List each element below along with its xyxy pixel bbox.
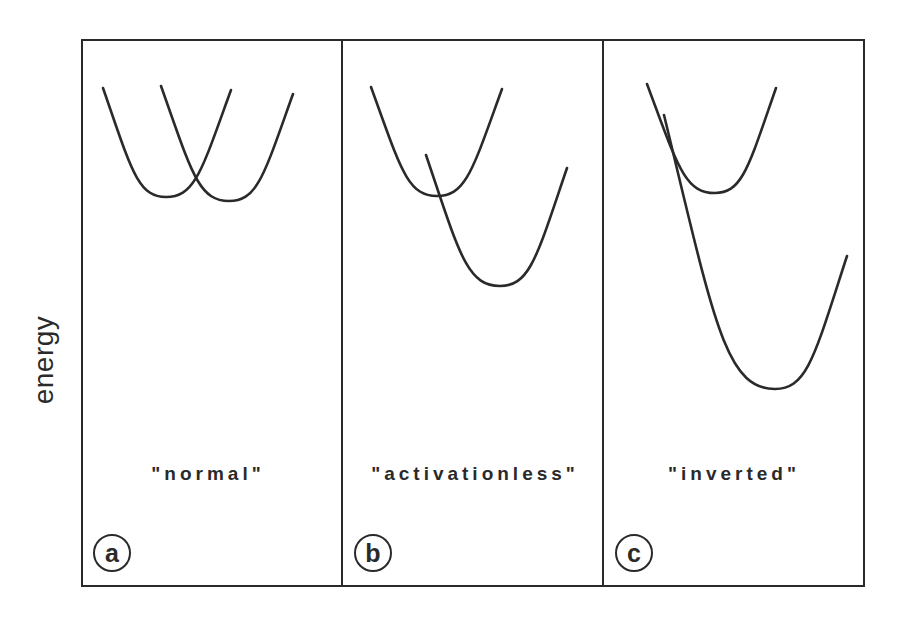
- marcus-regions-diagram: [0, 0, 903, 618]
- figure-frame: [82, 40, 864, 586]
- panel-b-label: "activationless": [371, 463, 579, 485]
- panel-a-letter-badge: a: [93, 534, 131, 572]
- energy-curves: [103, 84, 847, 389]
- panel-c-label: "inverted": [668, 463, 800, 485]
- panel-a-label: "normal": [151, 463, 264, 485]
- panel-c-letter: c: [627, 541, 641, 566]
- panel-c-letter-badge: c: [615, 534, 653, 572]
- panel-b-letter-badge: b: [354, 534, 392, 572]
- panel-b-letter: b: [365, 541, 380, 566]
- y-axis-label: energy: [28, 316, 60, 405]
- panel-b-reactant-curve: [371, 87, 502, 196]
- panel-c-product-curve: [664, 115, 847, 389]
- panel-b-product-curve: [426, 155, 567, 286]
- panel-a-letter: a: [105, 541, 119, 566]
- panel-c-reactant-curve: [647, 84, 776, 193]
